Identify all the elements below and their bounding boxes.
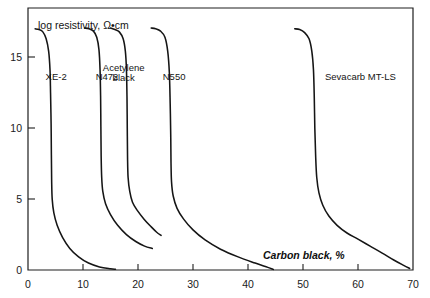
plot-frame <box>28 8 413 270</box>
y-tick-label-0: 0 <box>16 264 22 276</box>
series-label: XE-2 <box>46 71 67 82</box>
x-tick-label-30: 30 <box>187 278 199 290</box>
x-tick-label-40: 40 <box>242 278 254 290</box>
series-curve <box>295 29 410 269</box>
x-tick-label-0: 0 <box>25 278 31 290</box>
x-tick-label-50: 50 <box>297 278 309 290</box>
series-curves <box>35 28 410 269</box>
x-tick-label-70: 70 <box>407 278 419 290</box>
resistivity-vs-carbon-black-chart: 0 5 10 15 0 10 20 30 40 50 60 70 log res… <box>0 0 430 298</box>
y-tick-labels: 0 5 10 15 <box>10 51 22 276</box>
x-tick-label-20: 20 <box>132 278 144 290</box>
y-tick-label-5: 5 <box>16 193 22 205</box>
series-labels: XE-2N472AcetyleneblackN550Sevacarb MT-LS <box>46 62 396 83</box>
x-tick-labels: 0 10 20 30 40 50 60 70 <box>25 278 419 290</box>
y-axis-ticks <box>28 57 35 199</box>
x-tick-label-10: 10 <box>77 278 89 290</box>
y-tick-label-10: 10 <box>10 122 22 134</box>
chart-figure: 0 5 10 15 0 10 20 30 40 50 60 70 log res… <box>0 0 430 298</box>
x-tick-label-60: 60 <box>352 278 364 290</box>
series-label: N550 <box>163 71 186 82</box>
series-label: Sevacarb MT-LS <box>325 71 396 82</box>
series-curve <box>111 28 162 235</box>
x-axis-ticks <box>83 264 358 270</box>
x-axis-title: Carbon black, % <box>263 249 345 261</box>
y-tick-label-15: 15 <box>10 51 22 63</box>
series-curve <box>151 28 273 269</box>
